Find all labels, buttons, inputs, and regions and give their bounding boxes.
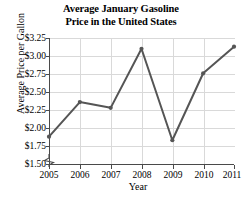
y-tick-mark bbox=[46, 110, 50, 111]
y-tick-label: $2.00 bbox=[4, 124, 46, 133]
y-tick-mark bbox=[46, 92, 50, 93]
y-tick-label: $1.50 bbox=[4, 160, 46, 169]
y-tick-mark bbox=[46, 74, 50, 75]
gridline-vertical bbox=[80, 38, 81, 164]
chart-title-line-2: Price in the United States bbox=[0, 16, 242, 29]
y-tick-label: $2.75 bbox=[4, 70, 46, 79]
chart-title: Average January Gasoline Price in the Un… bbox=[0, 3, 242, 28]
x-tick-label: 2011 bbox=[215, 170, 242, 180]
y-tick-label: $3.25 bbox=[4, 34, 46, 43]
x-tick-mark bbox=[111, 165, 112, 169]
x-tick-label: 2006 bbox=[63, 170, 97, 180]
gridline-vertical bbox=[142, 38, 143, 164]
x-axis-title: Year bbox=[34, 181, 242, 192]
y-tick-mark bbox=[46, 38, 50, 39]
x-tick-label: 2005 bbox=[32, 170, 66, 180]
x-tick-label: 2007 bbox=[94, 170, 128, 180]
gridline-vertical bbox=[173, 38, 174, 164]
plot-area bbox=[49, 38, 235, 164]
y-tick-label: $1.75 bbox=[4, 142, 46, 151]
gridline-vertical bbox=[204, 38, 205, 164]
axis-break-icon bbox=[43, 154, 56, 167]
y-tick-mark bbox=[46, 56, 50, 57]
x-tick-label: 2008 bbox=[125, 170, 159, 180]
y-tick-mark bbox=[46, 128, 50, 129]
y-tick-label: $2.50 bbox=[4, 88, 46, 97]
x-tick-mark bbox=[204, 165, 205, 169]
chart-title-line-1: Average January Gasoline bbox=[0, 3, 242, 16]
x-tick-mark bbox=[80, 165, 81, 169]
x-tick-mark bbox=[173, 165, 174, 169]
y-tick-label: $2.25 bbox=[4, 106, 46, 115]
gridline-vertical bbox=[111, 38, 112, 164]
x-tick-label: 2009 bbox=[156, 170, 190, 180]
y-tick-label: $3.00 bbox=[4, 52, 46, 61]
y-tick-mark bbox=[46, 146, 50, 147]
x-tick-mark bbox=[142, 165, 143, 169]
gasoline-price-line-chart: Average January Gasoline Price in the Un… bbox=[0, 0, 242, 202]
x-tick-mark bbox=[234, 165, 235, 169]
